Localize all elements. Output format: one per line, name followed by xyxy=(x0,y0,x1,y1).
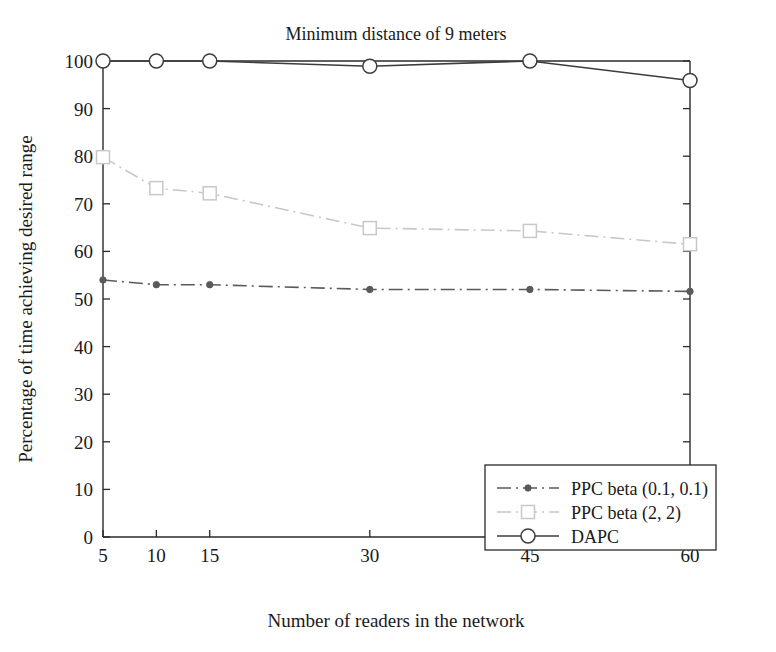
series-layer xyxy=(96,54,697,295)
legend-label: PPC beta (0.1, 0.1) xyxy=(571,479,708,500)
legend-marker-circle xyxy=(521,529,535,543)
legend-label: DAPC xyxy=(571,527,619,547)
x-tick-label: 15 xyxy=(200,545,219,566)
y-tick-label: 90 xyxy=(74,99,93,120)
series-dot xyxy=(100,277,693,295)
y-tick-label: 40 xyxy=(74,337,93,358)
y-tick-label: 70 xyxy=(74,194,93,215)
x-axis-title: Number of readers in the network xyxy=(268,610,525,631)
x-tick-label: 10 xyxy=(147,545,166,566)
x-tick-label: 30 xyxy=(360,545,379,566)
y-tick-label: 30 xyxy=(74,384,93,405)
y-tick-label: 80 xyxy=(74,146,93,167)
legend-label: PPC beta (2, 2) xyxy=(571,503,681,524)
y-axis-title: Percentage of time achieving desired ran… xyxy=(15,135,36,463)
y-tick-label: 100 xyxy=(65,51,94,72)
series-square xyxy=(97,151,697,251)
chart-title: Minimum distance of 9 meters xyxy=(286,24,507,44)
series-circle xyxy=(96,54,697,88)
y-tick-label: 0 xyxy=(84,527,94,548)
x-tick-label: 5 xyxy=(98,545,108,566)
y-tick-label: 60 xyxy=(74,241,93,262)
y-tick-label: 20 xyxy=(74,432,93,453)
y-tick-label: 10 xyxy=(74,479,93,500)
legend-marker-square xyxy=(522,506,535,519)
legend-marker-dot xyxy=(525,485,531,491)
line-chart: Minimum distance of 9 meters 01020304050… xyxy=(0,0,776,652)
y-tick-label: 50 xyxy=(74,289,93,310)
chart-container: Minimum distance of 9 meters 01020304050… xyxy=(0,0,776,652)
legend: PPC beta (0.1, 0.1)PPC beta (2, 2)DAPC xyxy=(485,465,716,550)
